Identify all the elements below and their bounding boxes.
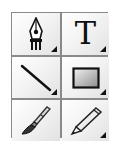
line-tool-icon bbox=[19, 63, 53, 93]
text-tool-button[interactable]: T bbox=[62, 13, 109, 55]
pen-tool-button[interactable] bbox=[12, 13, 60, 55]
submenu-indicator-icon bbox=[100, 132, 106, 138]
submenu-indicator-icon bbox=[51, 46, 57, 52]
drawing-tools-palette: T bbox=[11, 12, 108, 138]
submenu-indicator-icon bbox=[100, 46, 106, 52]
text-tool-icon: T bbox=[75, 17, 96, 49]
brush-tool-button[interactable] bbox=[12, 100, 60, 141]
rectangle-tool-button[interactable] bbox=[62, 57, 109, 98]
line-tool-button[interactable] bbox=[12, 57, 60, 98]
submenu-indicator-icon bbox=[51, 89, 57, 95]
paintbrush-icon bbox=[19, 106, 53, 136]
submenu-indicator-icon bbox=[100, 89, 106, 95]
pencil-tool-button[interactable] bbox=[62, 100, 109, 141]
pencil-icon bbox=[69, 106, 103, 136]
rectangle-tool-icon bbox=[72, 67, 100, 89]
pen-nib-icon bbox=[25, 17, 47, 51]
